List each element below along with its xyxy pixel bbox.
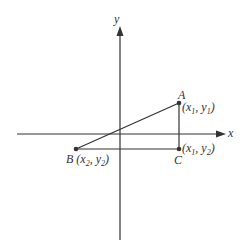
y-axis-label: y: [113, 12, 120, 26]
coordinate-diagram: x y A (x1, y1) B(x2, y2) (x1, y2) C: [0, 0, 242, 250]
point-A-coords: (x1, y1): [182, 100, 215, 116]
x-axis-label: x: [227, 126, 234, 140]
point-C-coords: (x1, y2): [182, 141, 215, 157]
point-C-name: C: [174, 153, 183, 167]
point-C: [177, 147, 182, 152]
x-axis-arrow-icon: [216, 131, 226, 138]
segment-BA: [76, 103, 179, 149]
point-B-label: B(x2, y2): [66, 152, 109, 168]
y-axis-arrow-icon: [117, 26, 124, 36]
point-B: [74, 147, 79, 152]
